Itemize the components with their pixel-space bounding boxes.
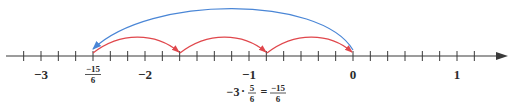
marked-denominator: 6 [91,75,96,85]
axis-label-neg2: −2 [138,67,152,82]
equation: −3 · 5 6 = −15 6 [227,83,286,104]
axis-arrow-icon [496,52,508,60]
equation-factor: −3 [227,85,240,99]
equation-result-denominator: 6 [276,94,281,104]
total-jump-arrow [93,9,353,50]
equation-fraction-denominator: 6 [250,94,255,104]
axis-label-neg1: −1 [242,67,256,82]
equation-equals: = [261,85,268,99]
equation-fraction-numerator: 5 [250,83,255,93]
equation-result-numerator: −15 [271,83,286,93]
number-line-diagram: −3 −2 −1 0 1 −15 6 −3 · 5 6 = −15 6 [0,0,516,108]
equation-dot: · [241,84,245,98]
number-line-axis [6,52,508,60]
marked-numerator: −15 [86,64,101,74]
marked-point-label: −15 6 [85,64,101,85]
jump-arrow-2 [180,37,266,53]
axis-label-neg3: −3 [34,67,48,82]
jump-arrow-3 [267,37,352,53]
axis-label-1: 1 [454,67,461,82]
axis-label-0: 0 [350,67,357,82]
